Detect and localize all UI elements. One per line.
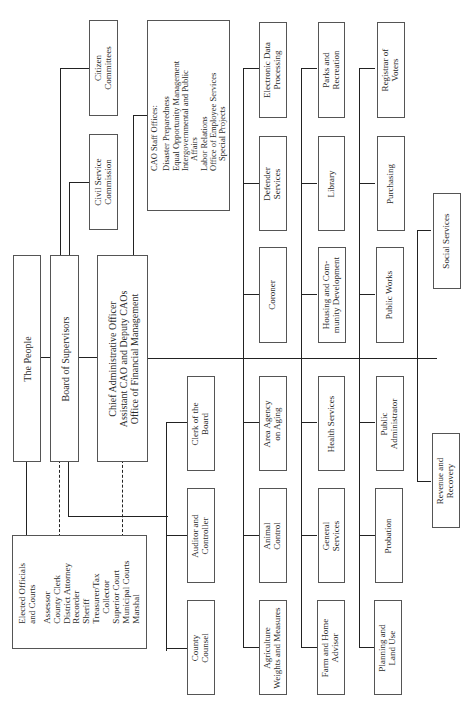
tick [243,294,259,295]
tick [417,481,431,482]
dept-col3-spine [359,68,360,648]
list-item: Disaster Preparedness [162,60,171,170]
node-title: CAO Staff Offices: [150,60,159,170]
node-planning-and-land-use[interactable]: Planning and Land Use [374,600,402,695]
node-label: Counsel [201,633,211,663]
list-item: Special Projects [218,60,227,170]
node-electronic-data-processing[interactable]: Electronic Data Processing [259,22,287,118]
node-label: Services [273,167,283,200]
tick [301,422,317,423]
tick [417,230,431,231]
list-item: Municipal Courts [122,560,132,623]
list-item: Affairs [190,60,199,170]
node-label: Board of Supervisors [59,316,70,401]
node-public-administrator[interactable]: Public Administrator [376,376,404,471]
node-the-people[interactable]: The People [13,255,41,462]
node-label: Social Services [442,213,452,268]
node-label: Public Works [385,271,395,319]
node-label: Advisor [331,618,341,677]
node-label: Civil Service [94,158,104,205]
tick [301,535,317,536]
connector-clerk-h [166,422,188,423]
node-registrar-of-voters[interactable]: Registrar of Voters [377,22,405,118]
list-item: Assessor [42,560,52,623]
node-label: Weights and Measures [273,607,283,688]
tick [243,183,259,184]
node-label: Board [201,402,211,445]
list-item: Superior Court [112,560,122,623]
node-label: The People [22,336,33,381]
list-item: Marshal [131,560,141,623]
connector-board-direct-v [68,460,69,517]
tick [301,183,317,184]
tick [243,68,259,69]
dept-col4-spine [417,230,418,482]
tick [243,535,259,536]
node-revenue-and-recovery[interactable]: Revenue and Recovery [432,433,460,528]
node-auditor-and-controller[interactable]: Auditor and Controller [187,488,215,583]
dept-col1-spine [243,68,244,648]
node-animal-control[interactable]: Animal Control [259,488,287,583]
node-label: Probation [384,518,394,553]
node-citizen-committees[interactable]: Citizen Committees [89,20,118,116]
node-label: Administrator [390,398,400,449]
connector-counsel-h [166,648,188,649]
node-label: Processing [273,42,283,98]
node-title: Elected Officials [18,560,28,623]
node-label: Committees [104,46,114,90]
connector-cao-bus [147,358,437,359]
node-coroner[interactable]: Coroner [259,247,287,343]
tick [359,294,375,295]
tick [359,183,375,184]
connector-board-civil-v [69,182,70,257]
node-purchasing[interactable]: Purchasing [377,136,405,231]
node-elected-officials-and-courts[interactable]: Elected Officials and Courts Assessor Co… [12,535,147,649]
node-parks-and-recreation[interactable]: Parks and Recreation [318,22,345,118]
node-label: Land Use [388,624,398,671]
node-civil-service-commission[interactable]: Civil Service Commission [89,134,118,230]
node-probation[interactable]: Probation [375,488,403,583]
connector-direct-spine [166,422,167,651]
node-label: Coroner [268,280,278,310]
node-housing-community-development[interactable]: Housing and Com- munity Development [318,247,346,343]
node-label: Parks and [322,51,332,90]
connector-civil-h [69,182,90,183]
node-label: Recreation [332,51,342,90]
node-label: on Aging [273,400,283,447]
node-label: Health Services [327,395,337,452]
node-library[interactable]: Library [318,136,345,231]
connector-board-direct-h [68,516,168,517]
node-defender-services[interactable]: Defender Services [259,136,287,231]
node-title: and Courts [28,560,38,623]
dept-col2-spine [301,68,302,648]
node-label: Recovery [446,457,456,504]
list-item: County Clerk [52,560,62,623]
node-county-counsel[interactable]: County Counsel [187,600,215,695]
node-label: Office of Financial Management [128,290,139,427]
node-general-services[interactable]: General Services [318,488,345,583]
node-farm-and-home-advisor[interactable]: Farm and Home Advisor [317,600,345,695]
node-public-works[interactable]: Public Works [376,247,404,343]
node-chief-administrative-officer[interactable]: Chief Administrative Officer Assistant C… [97,255,148,462]
tick [359,68,375,69]
node-label: Voters [391,49,401,92]
node-label: Control [273,522,283,550]
node-health-services[interactable]: Health Services [318,376,345,471]
node-label: Services [332,520,342,551]
node-label: Library [327,170,337,197]
node-label: Commission [104,158,114,205]
tick [359,422,375,423]
node-cao-staff-offices[interactable]: CAO Staff Offices: Disaster Preparedness… [147,20,230,211]
connector-board-citizen-v [60,68,61,257]
tick [243,422,259,423]
node-board-of-supervisors[interactable]: Board of Supervisors [50,255,79,462]
node-area-agency-on-aging[interactable]: Area Agency on Aging [259,376,287,471]
connector-citizen-h [60,68,90,69]
node-clerk-of-the-board[interactable]: Clerk of the Board [187,376,215,471]
tick [359,647,375,648]
node-agriculture-weights-measures[interactable]: Agriculture Weights and Measures [259,600,287,695]
connector-auditor-h [166,535,188,536]
tick [243,647,259,648]
connector-cao-staff-v [133,115,134,257]
node-social-services[interactable]: Social Services [433,193,461,289]
